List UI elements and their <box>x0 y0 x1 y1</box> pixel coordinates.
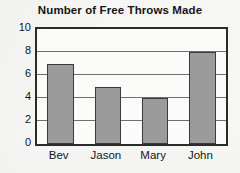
bar-jason <box>95 87 121 145</box>
y-axis-tick-label: 4 <box>25 90 31 102</box>
y-axis-tick-label: 10 <box>19 21 31 33</box>
y-axis-tick-label: 2 <box>25 113 31 125</box>
x-axis-label-bev: Bev <box>49 149 69 161</box>
y-axis-tick-label: 6 <box>25 67 31 79</box>
x-axis-label-jason: Jason <box>91 149 122 161</box>
y-axis-tick-label: 8 <box>25 44 31 56</box>
x-axis-label-mary: Mary <box>140 149 166 161</box>
bar-mary <box>142 98 168 144</box>
y-axis: 0246810 <box>0 27 31 146</box>
bar-chart-figure: Number of Free Throws Made 0246810 BevJa… <box>0 0 240 173</box>
x-axis: BevJasonMaryJohn <box>35 149 228 167</box>
bar-john <box>189 52 215 144</box>
bars-layer <box>37 29 226 144</box>
chart-title: Number of Free Throws Made <box>0 4 240 16</box>
bar-bev <box>47 64 73 145</box>
x-axis-label-john: John <box>188 149 213 161</box>
y-axis-tick-label: 0 <box>25 136 31 148</box>
plot-area <box>35 27 228 146</box>
